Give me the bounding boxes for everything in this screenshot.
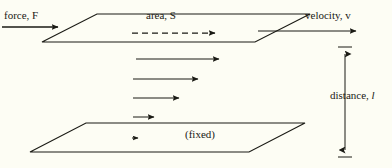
fixed-plate [30, 123, 305, 152]
viscosity-diagram: force, F area, S velocity, v distance, l… [0, 0, 392, 168]
distance-label-symbol: l [372, 89, 375, 101]
area-label: area, S [146, 10, 176, 21]
diagram-canvas [0, 0, 392, 168]
distance-label: distance, l [330, 90, 375, 101]
velocity-label: velocity, v [305, 10, 351, 21]
fixed-plate-label: (fixed) [185, 129, 215, 140]
moving-plate [42, 14, 310, 42]
distance-label-text: distance, [330, 89, 372, 101]
force-label: force, F [4, 10, 38, 21]
